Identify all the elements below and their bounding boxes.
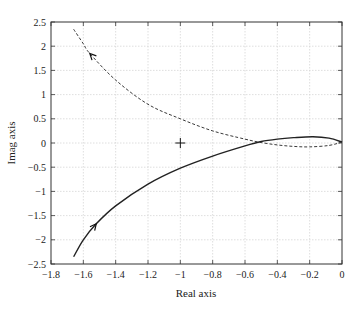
x-tick-label: −1.4 (107, 269, 125, 280)
plus-marker-icon (175, 138, 185, 148)
root-locus-chart: −1.8−1.6−1.4−1.2−1−0.8−0.6−0.4−0.20 2.52… (0, 0, 357, 315)
x-tick-label: −1.6 (74, 269, 92, 280)
x-tick-label: −0.8 (204, 269, 222, 280)
dashed-locus-curve (74, 29, 342, 147)
solid-locus-curve (74, 137, 342, 257)
y-tick-label: 1.5 (34, 65, 47, 76)
x-tick-label: 0 (340, 269, 345, 280)
x-tick-label: −1.2 (139, 269, 157, 280)
y-tick-label: 2.5 (34, 17, 47, 28)
x-tick-label: −0.6 (236, 269, 254, 280)
x-axis-label: Real axis (176, 287, 217, 299)
y-tick-label: 0.5 (34, 113, 47, 124)
y-tick-label: −1 (35, 186, 46, 197)
x-tick-label: −1 (175, 269, 186, 280)
y-tick-label: 2 (41, 41, 46, 52)
x-tick-label: −1.8 (42, 269, 60, 280)
y-tick-label: −0.5 (28, 162, 46, 173)
y-tick-label: 1 (41, 89, 46, 100)
y-tick-label: −1.5 (28, 210, 46, 221)
x-tick-label: −0.2 (301, 269, 319, 280)
y-tick-label: −2 (35, 234, 46, 245)
y-axis-label: Imag axis (5, 121, 17, 164)
x-axis-ticks: −1.8−1.6−1.4−1.2−1−0.8−0.6−0.4−0.20 (42, 22, 345, 280)
y-tick-label: 0 (41, 138, 46, 149)
y-tick-label: −2.5 (28, 259, 46, 270)
x-tick-label: −0.4 (268, 269, 286, 280)
markers-group (175, 138, 185, 148)
